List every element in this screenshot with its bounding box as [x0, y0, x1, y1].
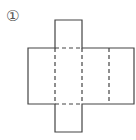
cuboid-net-diagram	[0, 0, 136, 140]
net-outline	[28, 20, 134, 132]
